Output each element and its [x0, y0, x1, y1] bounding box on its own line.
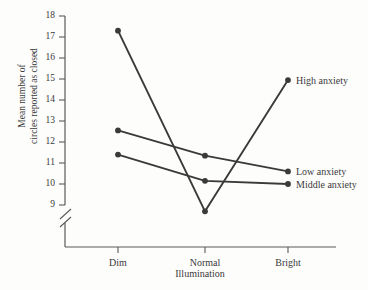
x-tick-label-dim: Dim: [88, 258, 148, 268]
x-tick-label-normal: Normal: [175, 258, 235, 268]
data-point-low-bright: [285, 169, 291, 175]
data-point-middle-bright: [285, 181, 291, 187]
y-axis-title: Mean number of circles reported as close…: [16, 26, 40, 166]
line-chart-plot: [0, 0, 368, 290]
series-line-high-anxiety: [118, 31, 288, 212]
series-high-anxiety: [115, 28, 291, 214]
x-axis-title: Illumination: [135, 268, 265, 279]
y-tick-label-9: 9: [33, 200, 55, 210]
x-tick-label-bright: Bright: [258, 258, 318, 268]
data-point-low-normal: [202, 153, 208, 159]
y-axis-title-line2: circles reported as closed: [28, 26, 40, 166]
data-point-middle-normal: [202, 178, 208, 184]
y-tick-label-10: 10: [33, 179, 55, 189]
data-point-low-dim: [115, 128, 121, 134]
data-point-high-bright: [285, 77, 291, 83]
series-low-anxiety: [115, 128, 291, 175]
series-label-high-anxiety: High anxiety: [296, 76, 348, 86]
series-line-low-anxiety: [118, 130, 288, 171]
series-label-low-anxiety: Low anxiety: [296, 167, 346, 177]
figure-canvas: 18 17 16 15 14 13 12 11 10 9 Dim Normal …: [0, 0, 368, 290]
y-tick-label-18: 18: [33, 11, 55, 21]
data-point-middle-dim: [115, 152, 121, 158]
y-axis-title-line1: Mean number of: [16, 26, 28, 166]
axis-break-icon: [60, 209, 71, 219]
data-point-high-normal: [202, 208, 208, 214]
data-point-high-dim: [115, 28, 121, 34]
series-label-middle-anxiety: Middle anxiety: [296, 180, 357, 190]
axes-group: [59, 16, 336, 253]
